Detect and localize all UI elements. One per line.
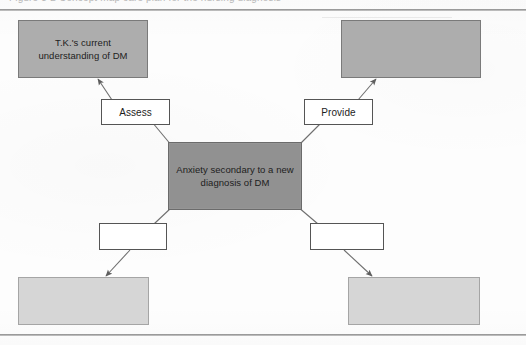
link-label-assess[interactable]: Assess — [101, 99, 170, 125]
node-bottom-right[interactable] — [348, 277, 480, 325]
node-bottom-left[interactable] — [18, 277, 149, 325]
link-label-assess-text: Assess — [113, 106, 158, 119]
connector-provide-to-top-right-node — [358, 79, 376, 100]
link-label-lower-left[interactable] — [99, 223, 167, 250]
concept-map-figure: Figure 3-2 Concept map care plan for the… — [0, 0, 526, 345]
figure-caption-clipped: Figure 3-2 Concept map care plan for the… — [0, 0, 526, 8]
figure-caption-text: Figure 3-2 Concept map care plan for the… — [9, 0, 281, 4]
scan-hairline-artifact — [322, 17, 452, 18]
node-top-right[interactable] — [341, 20, 481, 78]
link-label-lower-right[interactable] — [310, 223, 384, 250]
node-center-label: Anxiety secondary to a new diagnosis of … — [169, 163, 301, 189]
connector-assess-to-top-left-node — [98, 79, 112, 100]
top-horizontal-rule — [0, 9, 526, 11]
link-label-provide[interactable]: Provide — [304, 99, 373, 125]
connector-lower-right-label-to-bottom-right-node — [344, 250, 372, 276]
link-label-provide-text: Provide — [315, 106, 361, 119]
node-top-left[interactable]: T.K.'s current understanding of DM — [18, 20, 148, 78]
connector-lower-left-label-to-bottom-left-node — [106, 250, 130, 276]
bottom-horizontal-rule — [0, 334, 526, 336]
node-center-diagnosis[interactable]: Anxiety secondary to a new diagnosis of … — [168, 142, 302, 210]
node-top-left-label: T.K.'s current understanding of DM — [19, 36, 147, 62]
